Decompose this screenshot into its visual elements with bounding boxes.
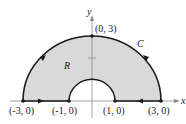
point-1-0 [113,99,117,103]
point-neg3-0 [21,99,25,103]
x-axis-label: x [180,95,186,106]
half-annulus-diagram: y x (0, 3) C R (-3, 0) (-1, 0) (1, 0) (3… [0,0,186,124]
x-axis-arrow-icon [174,99,180,103]
region-label-r: R [63,60,70,71]
y-axis-label: y [86,6,92,17]
point-0-3 [90,34,94,38]
curve-label-c: C [137,38,144,49]
point-label-neg1-0: (-1, 0) [52,105,77,117]
point-label-neg3-0: (-3, 0) [9,105,34,117]
point-label-1-0: (1, 0) [103,105,125,117]
point-label-3-0: (3, 0) [148,105,170,117]
point-label-0-3: (0, 3) [95,23,117,35]
point-3-0 [159,99,163,103]
point-neg1-0 [67,99,71,103]
